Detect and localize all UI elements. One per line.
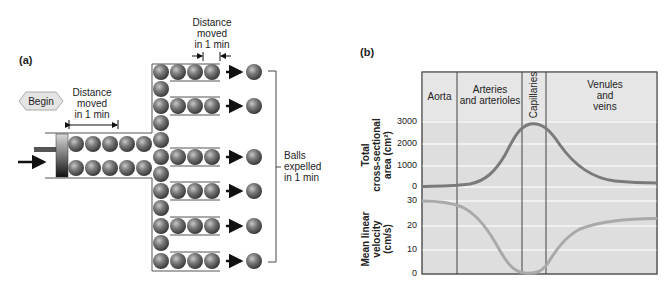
region-aorta: Aorta <box>422 91 457 102</box>
velocity-tick-0: 0 <box>387 268 417 278</box>
region-capillaries: Capillaries <box>528 64 540 126</box>
velocity-tick-10: 10 <box>387 244 417 254</box>
panel-b-chart <box>0 0 669 290</box>
velocity-tick-30: 30 <box>387 195 417 205</box>
region-arteries: Arteries and arterioles <box>456 84 524 106</box>
velocity-tick-20: 20 <box>387 220 417 230</box>
area-tick-3000: 3000 <box>387 116 417 126</box>
area-tick-0: 0 <box>387 181 417 191</box>
region-venules-veins: Venules and veins <box>560 79 650 112</box>
area-tick-1000: 1000 <box>387 160 417 170</box>
area-tick-2000: 2000 <box>387 138 417 148</box>
velocity-axis-label: Mean linear velocity (cm/s) <box>360 202 396 276</box>
